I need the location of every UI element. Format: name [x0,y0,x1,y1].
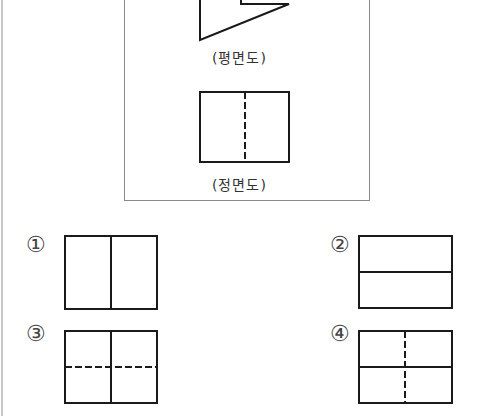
choice-2-number[interactable]: ② [330,232,350,257]
choice-3-number[interactable]: ③ [26,321,46,346]
choice-4-number[interactable]: ④ [330,321,350,346]
front-view-drawing [0,0,487,180]
front-view-label: (정면도) [212,174,267,194]
choice-1-number[interactable]: ① [26,232,46,257]
